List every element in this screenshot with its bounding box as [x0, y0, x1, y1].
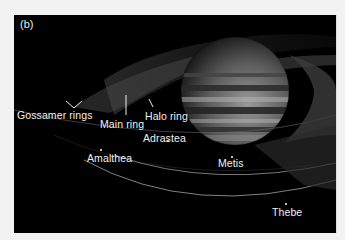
halo-ring-pointer [149, 99, 153, 107]
amalthea-label: Amalthea [87, 153, 132, 164]
main-ring-label: Main ring [100, 119, 144, 130]
metis-label: Metis [218, 158, 244, 169]
halo-ring-label: Halo ring [145, 111, 188, 122]
jupiter-ring-illustration [14, 15, 336, 233]
thebe-label: Thebe [272, 207, 302, 218]
amalthea-dot [100, 149, 102, 151]
diagram-panel: (b) Gossamer rings Main ring Halo ring A… [14, 15, 337, 233]
thebe-dot [285, 203, 287, 205]
gossamer-rings-label: Gossamer rings [17, 110, 93, 121]
adrastea-label: Adrastea [143, 133, 186, 144]
panel-label: (b) [20, 18, 33, 30]
